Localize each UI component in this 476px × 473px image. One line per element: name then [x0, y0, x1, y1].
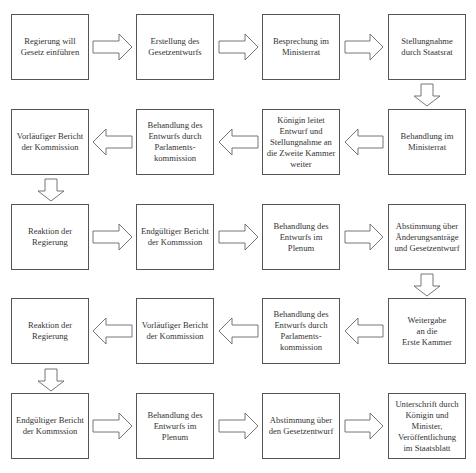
step-label: Weitergabe an die Erste Kammer — [400, 315, 454, 348]
step-vorlaeufiger-bericht-2: Vorläufiger Bericht der Kommission — [136, 298, 214, 364]
step-reaktion-regierung-1: Reaktion der Regierung — [11, 204, 89, 270]
step-plenum-2: Behandlung des Entwurfs im Plenum — [136, 393, 214, 459]
step-label: Königin leitet Entwurf und Stellungnahme… — [265, 115, 338, 170]
step-label: Reaktion der Regierung — [26, 320, 74, 342]
arrow-left-icon — [93, 129, 132, 155]
step-label: Endgültiger Bericht der Kommssion — [14, 415, 86, 437]
step-label: Unterschrift durch Königin und Minister,… — [393, 399, 460, 454]
step-label: Behandlung des Entwurfs im Plenum — [145, 410, 204, 443]
step-plenum-1: Behandlung des Entwurfs im Plenum — [262, 204, 340, 270]
step-label: Vorläufiger Bericht der Kommission — [15, 131, 85, 153]
step-abstimmung-gesetzentwurf: Abstimmung über den Gesetzentwurf — [262, 393, 340, 459]
arrow-right-icon — [93, 413, 132, 439]
step-label: Vorläufiger Bericht der Kommission — [140, 320, 210, 342]
step-label: Regierung will Gesetz einführen — [19, 36, 81, 58]
step-label: Behandlung des Entwurfs im Plenum — [271, 221, 330, 254]
step-endgueltiger-bericht-2: Endgültiger Bericht der Kommssion — [11, 393, 89, 459]
step-label: Erstellung des Gesetzentwurfs — [146, 36, 203, 58]
step-koenigin-leitet-weiter: Königin leitet Entwurf und Stellungnahme… — [262, 109, 340, 175]
arrow-left-icon — [219, 129, 258, 155]
step-abstimmung-aenderungsantraege: Abstimmung über Änderungsanträge und Ges… — [388, 204, 466, 270]
arrow-right-icon — [345, 34, 383, 60]
step-stellungnahme-staatsrat: Stellungnahme durch Staatsrat — [388, 14, 466, 80]
step-label: Behandlung im Ministerrat — [399, 131, 456, 153]
arrow-down-icon — [38, 179, 64, 201]
arrow-right-icon — [345, 413, 383, 439]
arrow-right-icon — [219, 413, 258, 439]
step-label: Abstimmung über Änderungsanträge und Ges… — [392, 221, 461, 254]
arrow-right-icon — [93, 34, 132, 60]
arrow-right-icon — [345, 224, 383, 250]
step-label: Endgültiger Bericht der Kommssion — [139, 226, 211, 248]
arrow-left-icon — [219, 318, 258, 344]
arrow-left-icon — [345, 318, 383, 344]
step-label: Behandlung des Entwurfs durch Parlaments… — [271, 309, 330, 353]
step-endgueltiger-bericht-1: Endgültiger Bericht der Kommssion — [136, 204, 214, 270]
step-label: Abstimmung über den Gesetzentwurf — [267, 415, 336, 437]
step-regierung-will-gesetz: Regierung will Gesetz einführen — [11, 14, 89, 80]
arrow-down-icon — [38, 369, 64, 391]
step-erstellung-gesetzentwurf: Erstellung des Gesetzentwurfs — [136, 14, 214, 80]
arrow-right-icon — [219, 224, 258, 250]
step-label: Behandlung des Entwurfs durch Parlaments… — [145, 120, 204, 164]
step-label: Stellungnahme durch Staatsrat — [399, 36, 455, 58]
arrow-left-icon — [93, 318, 132, 344]
step-weitergabe-erste-kammer: Weitergabe an die Erste Kammer — [388, 298, 466, 364]
step-behandlung-ministerrat: Behandlung im Ministerrat — [388, 109, 466, 175]
step-reaktion-regierung-2: Reaktion der Regierung — [11, 298, 89, 364]
step-parlamentskommission-2: Behandlung des Entwurfs durch Parlaments… — [262, 298, 340, 364]
step-unterschrift-veroeffentlichung: Unterschrift durch Königin und Minister,… — [388, 393, 466, 459]
step-vorlaeufiger-bericht-1: Vorläufiger Bericht der Kommission — [11, 109, 89, 175]
arrow-right-icon — [219, 34, 258, 60]
arrow-left-icon — [345, 129, 383, 155]
step-label: Reaktion der Regierung — [26, 226, 74, 248]
arrow-down-icon — [414, 274, 440, 296]
arrow-right-icon — [93, 224, 132, 250]
step-parlamentskommission-1: Behandlung des Entwurfs durch Parlaments… — [136, 109, 214, 175]
arrow-down-icon — [414, 84, 440, 106]
step-label: Besprechung im Ministerrat — [271, 36, 331, 58]
step-besprechung-ministerrat: Besprechung im Ministerrat — [262, 14, 340, 80]
